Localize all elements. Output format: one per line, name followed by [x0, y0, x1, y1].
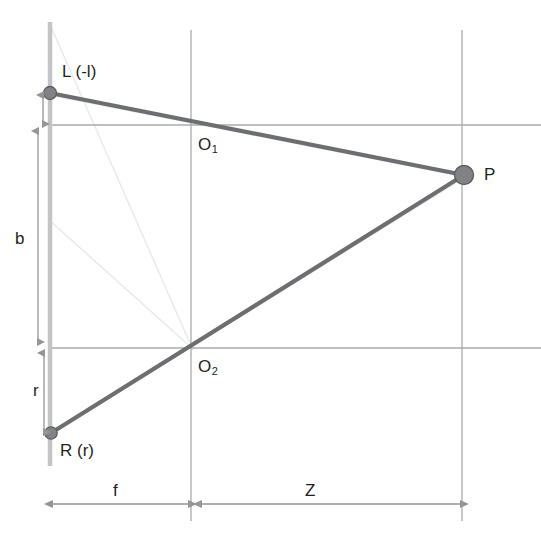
label-depth: Z	[305, 482, 315, 499]
ray-left-l-to-p	[50, 93, 464, 175]
construction-line-mid-to-o2	[49, 220, 193, 349]
construction-lines-group	[49, 22, 466, 434]
stereo-geometry-figure: L (-l) O1 O2 P R (r) b r f Z	[0, 0, 541, 535]
ray-lines-group	[50, 93, 464, 433]
point-R	[45, 427, 57, 439]
label-left-point: L (-l)	[62, 63, 96, 80]
point-P	[455, 166, 474, 185]
label-focal-length: f	[113, 482, 118, 499]
label-right-point: R (r)	[60, 442, 94, 459]
label-optical-center-top-subscript: 1	[212, 143, 218, 155]
label-object-point: P	[484, 166, 495, 183]
axis-lines-group	[50, 30, 541, 521]
point-L	[44, 87, 57, 100]
points-group	[44, 87, 474, 440]
label-optical-center-bottom: O2	[198, 358, 217, 375]
label-baseline: b	[15, 230, 24, 247]
label-optical-center-bottom-subscript: 2	[212, 365, 218, 377]
label-optical-center-top: O1	[198, 136, 217, 153]
label-optical-center-bottom-text: O	[198, 357, 211, 376]
dimension-lines-group	[38, 95, 461, 504]
ray-right-r-to-p	[51, 175, 464, 433]
label-right-disparity: r	[33, 382, 39, 399]
label-optical-center-top-text: O	[198, 135, 211, 154]
